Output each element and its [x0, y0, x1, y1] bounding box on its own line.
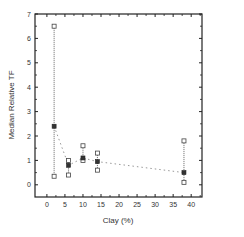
x-tick-label: 5	[63, 201, 67, 208]
plot-border	[35, 14, 202, 197]
range-bars	[54, 26, 184, 182]
min-marker	[95, 168, 99, 172]
chart: 01234567 0510152025303540 Clay (%) Media…	[0, 0, 244, 237]
y-tick-label: 5	[27, 59, 31, 66]
max-marker	[67, 158, 71, 162]
x-tick-label: 40	[187, 201, 195, 208]
median-marker	[95, 160, 99, 164]
y-tick-label: 1	[27, 157, 31, 164]
max-marker	[95, 151, 99, 155]
median-marker	[182, 171, 186, 175]
x-axis-title: Clay (%)	[103, 216, 134, 225]
min-marker	[52, 174, 56, 178]
y-axis-title: Median Relative TF	[7, 70, 16, 139]
max-marker	[81, 144, 85, 148]
max-marker	[182, 139, 186, 143]
y-tick-label: 6	[27, 35, 31, 42]
x-tick-label: 20	[115, 201, 123, 208]
x-tick-label: 30	[151, 201, 159, 208]
y-tick-label: 7	[27, 11, 31, 18]
median-marker	[81, 156, 85, 160]
y-tick-label: 0	[27, 181, 31, 188]
x-tick-label: 25	[133, 201, 141, 208]
y-axis: 01234567	[27, 11, 202, 189]
x-tick-label: 35	[169, 201, 177, 208]
data-points	[52, 24, 186, 184]
y-tick-label: 3	[27, 108, 31, 115]
min-marker	[67, 173, 71, 177]
x-tick-label: 15	[97, 201, 105, 208]
plot-frame	[35, 14, 202, 197]
x-tick-label: 0	[45, 201, 49, 208]
min-marker	[182, 180, 186, 184]
trend-polyline	[54, 126, 184, 172]
median-marker	[52, 124, 56, 128]
median-marker	[67, 163, 71, 167]
x-axis: 0510152025303540	[45, 14, 200, 208]
max-marker	[52, 24, 56, 28]
x-tick-label: 10	[79, 201, 87, 208]
y-tick-label: 2	[27, 133, 31, 140]
y-tick-label: 4	[27, 84, 31, 91]
trend-line	[54, 126, 184, 172]
